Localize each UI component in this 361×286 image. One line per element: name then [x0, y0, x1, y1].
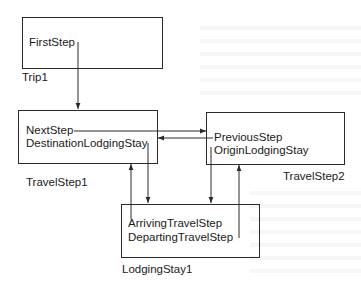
node-trip1-label: Trip1: [22, 71, 48, 84]
field-arrivingtravelstep: ArrivingTravelStep: [128, 217, 222, 230]
field-destinationlodgingstay: DestinationLodgingStay: [26, 137, 147, 150]
node-travelstep1-label: TravelStep1: [26, 176, 88, 189]
field-departingtravelstep: DepartingTravelStep: [128, 231, 233, 244]
field-previousstep: PreviousStep: [214, 131, 282, 144]
node-lodgingstay1-label: LodgingStay1: [122, 263, 192, 276]
field-nextstep: NextStep: [26, 124, 73, 137]
field-firststep: FirstStep: [29, 36, 75, 49]
node-travelstep2-label: TravelStep2: [283, 170, 345, 183]
field-originlodgingstay: OriginLodgingStay: [214, 144, 309, 157]
